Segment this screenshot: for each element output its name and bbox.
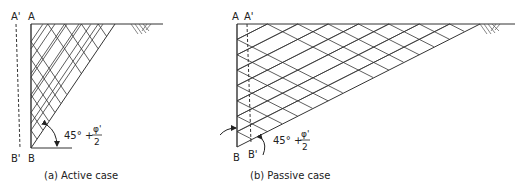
active-label-b: B: [28, 153, 35, 164]
slip-line: [98, 24, 106, 36]
slip-line: [237, 24, 359, 86]
slip-line: [237, 24, 389, 101]
slip-line: [31, 24, 67, 77]
active-angle-denominator: 2: [94, 137, 100, 147]
slip-line: [31, 59, 61, 103]
active-label-b-prime: B': [11, 153, 21, 164]
active-case-figure: A' A B' B 45° + φ' 2 (a) Active case: [11, 11, 163, 181]
slip-line: [237, 24, 419, 116]
passive-angle-label: 45° +: [273, 135, 302, 146]
passive-angle-arc: [262, 139, 265, 155]
slip-line: [31, 25, 91, 113]
slip-line: [237, 24, 298, 55]
active-displaced-wall: [16, 24, 20, 148]
passive-failure-plane: [237, 24, 480, 147]
slip-line: [31, 130, 37, 139]
passive-ground-hatch: [480, 24, 500, 34]
passive-slip-mesh: [237, 24, 464, 139]
active-angle-numerator: φ': [93, 124, 101, 134]
slip-line: [237, 24, 328, 70]
active-label-a-prime: A': [11, 11, 21, 22]
earth-pressure-diagram: A' A B' B 45° + φ' 2 (a) Active case A A…: [0, 0, 530, 185]
passive-wall-arrow: [220, 128, 236, 135]
active-caption: (a) Active case: [44, 170, 118, 181]
slip-line: [237, 24, 450, 132]
slip-line: [237, 24, 267, 39]
active-angle-arc: [47, 125, 57, 146]
slip-line: [31, 24, 81, 98]
passive-caption: (b) Passive case: [250, 170, 330, 181]
passive-angle-numerator: φ': [301, 129, 309, 139]
passive-case-figure: A A' B B' 45° + φ' 2 (b) Passive case: [220, 11, 515, 181]
slip-line: [237, 132, 252, 139]
passive-label-b: B: [233, 152, 240, 163]
active-label-a: A: [28, 11, 35, 22]
passive-label-a-prime: A': [244, 11, 254, 22]
passive-angle-denominator: 2: [302, 142, 308, 152]
slip-line: [267, 24, 373, 78]
slip-line: [31, 24, 43, 41]
active-angle-label: 45° +: [64, 130, 93, 141]
passive-label-a: A: [232, 11, 239, 22]
slip-line: [328, 24, 403, 62]
active-ground-hatch: [131, 24, 151, 34]
slip-line: [237, 39, 343, 93]
active-slip-mesh: [31, 24, 107, 139]
slip-line: [450, 24, 465, 31]
passive-label-b-prime: B': [248, 149, 258, 160]
slip-line: [237, 70, 312, 108]
